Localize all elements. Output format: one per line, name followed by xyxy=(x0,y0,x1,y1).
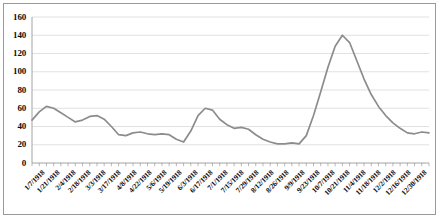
y-tick-label: 140 xyxy=(0,30,26,40)
y-tick-label: 80 xyxy=(0,85,26,95)
y-tick-label: 60 xyxy=(0,103,26,113)
y-tick-label: 20 xyxy=(0,139,26,149)
y-tick-label: 120 xyxy=(0,48,26,58)
y-tick-label: 40 xyxy=(0,121,26,131)
y-tick-label: 160 xyxy=(0,12,26,22)
y-tick-label: 0 xyxy=(0,158,26,168)
data-line xyxy=(32,35,429,144)
line-chart: 020406080100120140160 1/7/19181/21/19182… xyxy=(0,0,441,220)
y-tick-label: 100 xyxy=(0,66,26,76)
